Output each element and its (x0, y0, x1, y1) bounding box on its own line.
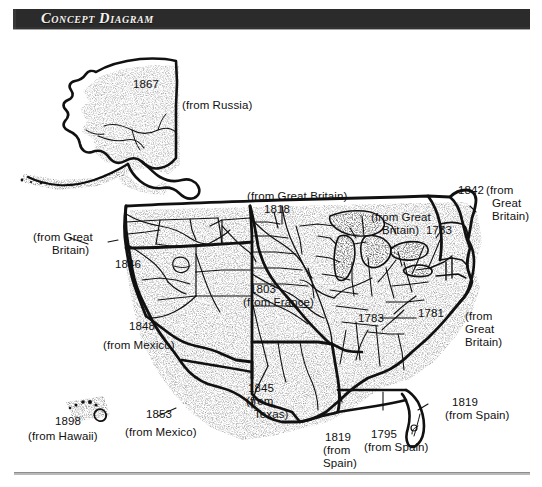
label-louisiana-year: 1803 (250, 283, 276, 296)
concept-diagram-banner: Concept Diagram (13, 9, 530, 29)
leader-1846 (108, 240, 118, 242)
label-spainwest-source-1: (from (323, 444, 350, 457)
label-hawaii-source: (from Hawaii) (28, 430, 98, 443)
label-mexican-source: (from Mexico) (103, 339, 175, 352)
label-lakes-year: 1783 (426, 224, 452, 237)
label-oregon-year: 1846 (115, 258, 141, 271)
label-lakes-source-2: Britain) (382, 224, 419, 237)
label-texas-year: 1845 (248, 382, 274, 395)
label-oregon-source-1: (from Great (33, 231, 93, 244)
label-texas-source-2: Texas) (254, 408, 288, 421)
label-florida-year: 1819 (452, 396, 478, 409)
label-spaingulf-year: 1795 (371, 428, 397, 441)
page-title: Concept Diagram (41, 10, 154, 27)
aleutian-stipple (20, 166, 132, 190)
label-colonies-source-3: Britain) (465, 336, 502, 349)
label-florida-source: (from Spain) (445, 409, 509, 422)
label-gadsden-source: (from Mexico) (125, 426, 197, 439)
label-colonies-source-2: Great (465, 323, 494, 336)
label-oregon-source-2: Britain) (52, 244, 89, 257)
label-interior-year: 1783 (358, 312, 384, 325)
label-texas-source-1: (from (246, 395, 273, 408)
concept-diagram-page: Concept Diagram (0, 0, 542, 487)
label-maine-source-3: Britain) (492, 210, 529, 223)
label-alaska-source: (from Russia) (182, 99, 252, 112)
label-lakes-source-1: (from Great (371, 211, 431, 224)
label-hawaii-year: 1898 (55, 415, 81, 428)
label-mexican-year: 1848 (129, 320, 155, 333)
label-maine-source-2: Great (492, 197, 521, 210)
label-gadsden-year: 1853 (146, 408, 172, 421)
label-spaingulf-source: (from Spain) (364, 441, 428, 454)
label-colonies-source-1: (from (465, 310, 492, 323)
label-alaska-year: 1867 (133, 78, 159, 91)
label-north-year: 1818 (264, 203, 290, 216)
label-spainwest-year: 1819 (325, 431, 351, 444)
label-spainwest-source-2: Spain) (323, 457, 357, 470)
label-colonies-year: 1781 (418, 307, 444, 320)
florida-peninsula (402, 390, 424, 447)
label-north-source: (from Great Britain) (247, 190, 347, 203)
footer-divider (14, 472, 530, 475)
label-maine-year: 1842 (458, 184, 484, 197)
alaska-coast-shading (80, 65, 180, 195)
label-louisiana-source: (from France) (243, 296, 314, 309)
label-maine-source-1: (from (486, 184, 513, 197)
